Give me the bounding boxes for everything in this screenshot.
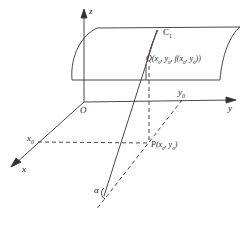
x-axis-label: x	[22, 165, 26, 174]
z-axis-label: z	[89, 7, 93, 16]
diagram-canvas	[0, 0, 243, 226]
curve-c1-label: C1	[163, 28, 172, 39]
y-axis	[84, 100, 232, 102]
z-axis-arrow-icon	[81, 9, 87, 18]
surface-right-curve	[220, 27, 240, 80]
x0-label: x0	[27, 134, 34, 145]
point-q-label: Q(x0, y0, f(x0, y0))	[146, 55, 201, 65]
origin-label: O	[80, 106, 87, 115]
x0-to-p-dashed	[38, 142, 149, 143]
y-axis-label: y	[228, 104, 232, 113]
angle-alpha-label: α	[94, 186, 99, 195]
y0-to-p-dashed-extended	[96, 100, 182, 210]
y0-label: y0	[178, 88, 185, 99]
point-p-label: P(x0, y0)	[151, 141, 177, 151]
